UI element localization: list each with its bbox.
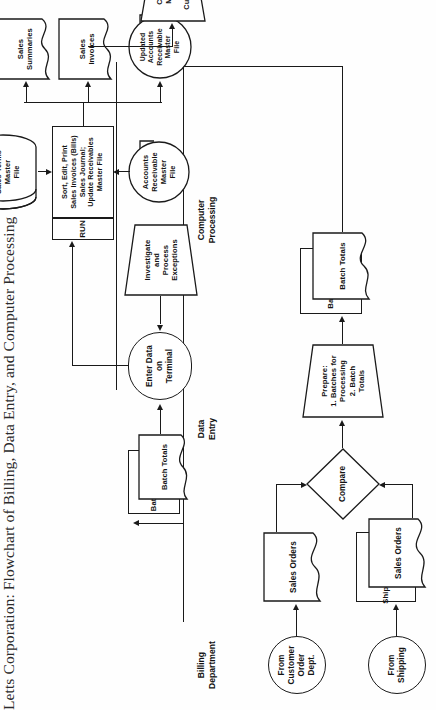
connector-from-customer-order-dept: From Customer Order Dept. bbox=[268, 636, 326, 694]
arrowhead-prepare-to-batched bbox=[339, 316, 345, 322]
document-sales-summaries: Sales Summaries bbox=[0, 18, 58, 80]
flow-line-billing-to-dataentry-h3 bbox=[136, 523, 184, 524]
arrowhead-investigate-to-enterdata bbox=[157, 325, 163, 331]
document-batch-totals-dataentry: Batch Totals bbox=[138, 434, 196, 500]
arrowhead-run-to-salessummaries bbox=[23, 81, 29, 87]
arrowhead-shipping-to-document bbox=[393, 604, 399, 610]
flow-line-run-output-bus-h bbox=[83, 102, 84, 126]
label-box-run-label: RUN bbox=[53, 219, 113, 239]
flow-line-investigate-to-enterdata bbox=[160, 296, 161, 324]
lane-divider-dataentry-computer bbox=[116, 62, 117, 390]
storage-accounts-receivable-master-file: Accounts Receivable Master File bbox=[128, 140, 190, 204]
flow-line-prepare-to-batched bbox=[342, 320, 343, 344]
flow-line-enterdata-to-run-h bbox=[72, 244, 73, 366]
flow-line-salesordersb-to-compare bbox=[412, 484, 413, 518]
lane-header-billing-line1: Billing bbox=[196, 632, 207, 698]
document-sales-orders-b: Sales Orders bbox=[368, 518, 434, 588]
flow-line-run-to-salessummaries bbox=[26, 85, 27, 103]
flow-line-batchtotals-to-enterdata bbox=[160, 408, 161, 434]
process-run-sort-edit-print-label: Sort, Edit, Print Sales Invoices (Bills)… bbox=[53, 127, 113, 217]
flow-line-enterdata-to-run-vert bbox=[72, 365, 128, 366]
lane-header-computer: Computer Processing bbox=[196, 182, 217, 258]
arrowhead-customer-to-salesorders bbox=[293, 604, 299, 610]
document-sales-orders-a: Sales Orders bbox=[263, 532, 329, 602]
connector-from-shipping-label: From Shipping bbox=[369, 637, 425, 693]
document-sales-invoices: Sales Invoices bbox=[58, 18, 120, 80]
lane-header-computer-line2: Processing bbox=[207, 182, 218, 258]
flow-line-salesordersb-to-compare-vert bbox=[384, 484, 413, 485]
document-batch-totals-billing: Batch Totals bbox=[312, 232, 378, 300]
process-run-sort-edit-print: Sort, Edit, Print Sales Invoices (Bills)… bbox=[52, 126, 114, 218]
label-box-run: RUN bbox=[52, 218, 114, 240]
flowchart-canvas: Billing Department Data Entry Computer P… bbox=[0, 0, 436, 710]
flow-line-customer-to-salesorders bbox=[296, 608, 297, 636]
flow-line-run-output-bus-vert bbox=[24, 102, 162, 103]
flowchart-page: Letts Corporation: Flowchart of Billing,… bbox=[0, 0, 436, 710]
flow-line-shipping-to-document bbox=[396, 608, 397, 636]
flow-line-billing-to-dataentry-vert bbox=[184, 66, 343, 67]
arrowhead-compare-to-prepare bbox=[339, 420, 345, 426]
arrowhead-run-to-updatedar bbox=[157, 81, 163, 87]
arrowhead-armaster-to-run bbox=[113, 170, 119, 176]
lane-header-billing-line2: Department bbox=[207, 632, 218, 698]
arrowhead-billing-to-dataentry bbox=[133, 520, 139, 526]
lane-header-data-entry-line2: Entry bbox=[207, 396, 218, 462]
manual-operation-investigate-exceptions: Investigate and Process Exceptions bbox=[124, 224, 198, 296]
storage-price-sales-terms-master-file: Price and Sales Terms Master File bbox=[0, 134, 38, 210]
arrowhead-enterdata-to-run bbox=[69, 241, 75, 247]
flow-line-billing-to-dataentry-h1 bbox=[342, 66, 343, 232]
flow-line-compare-to-prepare bbox=[342, 424, 343, 448]
lane-header-data-entry-line1: Data bbox=[196, 396, 207, 462]
terminal-enter-data-on-terminal-label: Enter Data on Terminal bbox=[129, 333, 191, 399]
lane-header-billing: Billing Department bbox=[196, 632, 217, 698]
manual-operation-prepare: Prepare: 1. Batches for Processing 2. Ba… bbox=[302, 344, 384, 418]
arrowhead-batchtotals-to-enterdata bbox=[157, 404, 163, 410]
arrowhead-pricefile-to-run bbox=[46, 170, 52, 176]
flow-line-armaster-to-run bbox=[118, 171, 130, 172]
arrowhead-run-to-salesinvoices bbox=[85, 81, 91, 87]
terminal-enter-data-on-terminal: Enter Data on Terminal bbox=[128, 332, 192, 400]
decision-compare: Compare bbox=[306, 448, 380, 520]
lane-header-data-entry: Data Entry bbox=[196, 396, 217, 462]
connector-from-shipping: From Shipping bbox=[368, 636, 426, 694]
flow-line-run-to-updatedar bbox=[160, 85, 161, 103]
flow-line-run-to-salesinvoices bbox=[88, 85, 89, 103]
connector-from-customer-order-dept-label: From Customer Order Dept. bbox=[269, 637, 325, 693]
flow-line-salesordersa-to-compare bbox=[276, 484, 277, 532]
storage-updated-accounts-receivable-master-file: Updated Accounts Receivable Master File bbox=[128, 14, 192, 80]
flow-line-salesordersa-to-compare-vert bbox=[276, 484, 303, 485]
